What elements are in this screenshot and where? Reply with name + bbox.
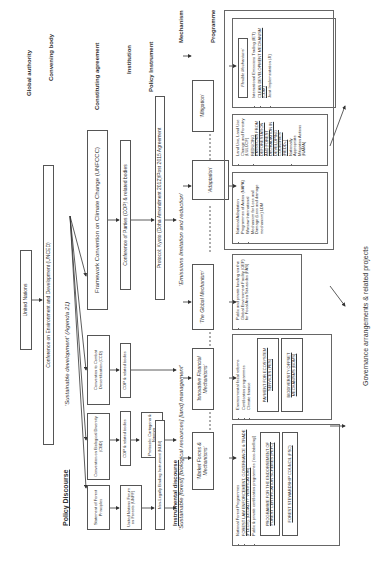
mitigation-programmes-panel: Land Use, Land Use Change and Forestry (… [232,114,328,166]
level-global-authority: Global authority [26,50,32,96]
level-institution: Institution [126,45,132,74]
list-item: Land Use, Land Use Change and Forestry (… [236,118,250,156]
list-item: Public and private funding via the Globa… [236,258,250,320]
adaptation-programmes-panel: National Adaptation Programmes of Action… [232,172,328,244]
fsc-box: FOREST STEWARDSHIP COUNCIL (FSC) [282,432,298,536]
list-item: National Adaptation Programmes of Action… [236,176,245,234]
diagram-canvas: Global authority Convening body Constitu… [0,0,384,586]
list-item: Nationally Appropriate Mitigation Action… [289,118,307,156]
united-nations-box: United Nations [20,250,32,350]
list-item: Joint Implementation (JI) [268,22,273,98]
list-item: International Emissions Trading (IET) [252,22,257,98]
list-item: Environmental fiscal reforms [236,338,241,410]
level-constituting-agreement: Constituting agreement [94,43,100,110]
ccd-box: Convention to Combat Desertification (CC… [87,335,110,405]
list-item: Climate finance [247,338,252,410]
list-item: Public & private certification programme… [252,428,257,536]
unfccc-box: Framework Convention on Climate Change (… [87,130,108,310]
emissions-discourse-text: 'Emissions limitation and reduction' [178,193,184,286]
innovative-programmes-list: Environmental fiscal reforms Certificati… [236,338,252,416]
flexible-mechanisms-list: International Emissions Trading (IET) CL… [252,22,272,104]
sustainable-forest-discourse-text: 'Sustainable [forest] [biological resour… [178,365,184,530]
global-mechanism-box: 'The Global Mechanism' [192,264,214,330]
list-item: FOREST LAW ENFORCEMENT, GOVERNANCE & TRA… [242,428,251,536]
level-mechanism: Mechanism [178,10,184,43]
list-item: CLEAN DEVELOPMENT MECHANISM (CDM) [258,22,267,98]
nlbi-box: Non-Legally Binding Instrument (NLBI) [155,420,165,530]
market-programmes-list: National Forest Programmes FOREST LAW EN… [236,428,256,542]
mitigation-programmes-list: Land Use, Land Use Change and Forestry (… [236,118,307,162]
cop-ccd-box: COP & related bodies [120,343,131,398]
agenda21-text: 'Sustainable development' (Agenda 21) [64,302,70,406]
adaptation-programmes-list: National Adaptation Programmes of Action… [236,176,265,240]
cbd-box: Convention on Biological Diversity (CBD) [87,413,110,480]
level-convening-body: Convening body [48,34,54,81]
cop-unfccc-box: Conference of Parties (COP) & related bo… [120,140,131,290]
bom-box: BIODIVERSITY OFFSET MECHANISMS (BOMs) [281,338,303,412]
list-item: Warsaw International Mechanism for Loss … [246,176,264,234]
pes-box: PAYMENT FOR ECOSYSTEM SERVICES (PES) [257,338,279,412]
governance-label: Governance arrangements & related projec… [362,246,369,386]
list-item: National Forest Programmes [236,428,241,536]
flexible-mechanisms-panel: 'Flexible Mechanisms' International Emis… [232,18,336,108]
innovative-programmes-panel: Environmental fiscal reforms Certificati… [232,334,332,420]
market-programmes-panel: National Forest Programmes FOREST LAW EN… [232,424,340,546]
forest-principles-box: Statement of Forest Principles [87,485,110,530]
kyoto-box: Protocol: Kyoto (Doha Amendment 2012)/Po… [155,96,165,300]
mitigation-box: 'Mitigation' [192,80,214,132]
level-policy-instrument: Policy Instrument [148,42,154,92]
global-mechanism-programmes-panel: Public and private funding via the Globa… [232,254,302,330]
flexible-mechanisms-title: 'Flexible Mechanisms' [238,38,248,98]
policy-discourse-label: Policy Discourse [62,470,69,526]
cop-cbd-box: COP & related bodies [120,411,131,466]
level-programme: Programme [210,10,216,43]
pefc-box: PROGRAMME FOR THE ENDORSEMENT OF FOREST … [260,432,280,536]
global-mechanism-programmes-list: Public and private funding via the Globa… [236,258,250,326]
unff-box: United Nations Forum on Forests (UNFF) [120,485,142,530]
innovative-financial-box: 'Innovative Financial Mechanisms' [192,348,214,410]
list-item: REDUCING EMISSIONS FROM DEFORESTATION AN… [251,118,288,156]
unced-box: Conference on Environment and Developmen… [43,165,54,445]
market-forces-box: 'Market Forces & Mechanisms' [192,432,214,490]
